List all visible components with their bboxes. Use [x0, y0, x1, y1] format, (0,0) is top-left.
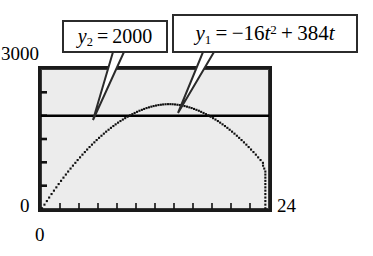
y1-linear-variable: t	[329, 21, 335, 45]
y1-exponent: 2	[270, 22, 277, 37]
graph-screen	[38, 66, 272, 212]
plot-area	[41, 69, 269, 209]
y1-equals: =	[216, 21, 228, 45]
y2-equals: =	[97, 25, 108, 47]
callout-box-y1: y1 = −16t2 + 384t	[172, 14, 358, 53]
y1-minus-sign: −	[232, 21, 244, 45]
series-parabola	[41, 103, 266, 209]
y1-linear-coefficient: 384	[297, 21, 329, 45]
x-axis-min-label: 0	[35, 225, 45, 244]
callout-box-y2: y2 = 2000	[62, 20, 168, 53]
equation-y2: y2 = 2000	[78, 25, 152, 48]
y-axis-ticks	[41, 92, 47, 185]
equation-y1: y1 = −16t2 + 384t	[196, 21, 335, 46]
y2-value: 2000	[112, 25, 152, 47]
y1-quadratic-coefficient: 16	[243, 21, 264, 45]
y2-subscript: 2	[87, 35, 93, 49]
y-axis-max-label: 3000	[1, 44, 39, 63]
x-axis-max-label: 24	[277, 196, 296, 215]
y1-plus-sign: +	[281, 21, 293, 45]
x-axis-ticks	[60, 203, 250, 209]
y-axis-min-label: 0	[20, 196, 30, 215]
figure-canvas: y2 = 2000 y1 = −16t2 + 384t 3000 0 0 24	[0, 0, 373, 256]
y1-subscript: 1	[205, 32, 212, 47]
